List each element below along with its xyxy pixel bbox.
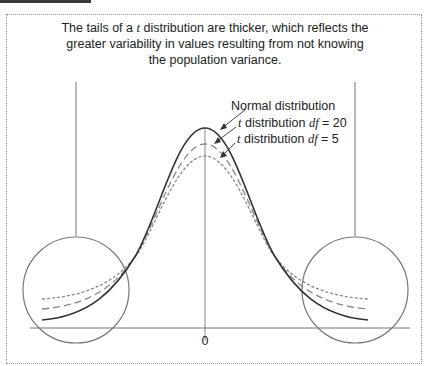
left-magnifier-circle bbox=[23, 237, 129, 343]
label-t20: t distribution df = 20 bbox=[238, 116, 347, 130]
label-normal: Normal distribution bbox=[231, 99, 335, 113]
right-magnifier-circle bbox=[302, 237, 408, 343]
x-tick-zero: 0 bbox=[202, 334, 209, 348]
label-t5: t distribution df = 5 bbox=[237, 132, 339, 146]
distribution-diagram: Normal distribution t distribution df = … bbox=[0, 0, 428, 366]
